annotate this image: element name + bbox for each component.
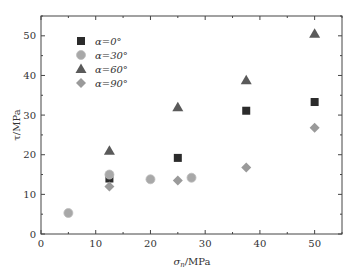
diamond-marker — [310, 123, 320, 133]
legend-label: α=30° — [95, 50, 128, 61]
plot-frame — [41, 16, 342, 234]
diamond-marker — [173, 175, 183, 185]
x-tick-label: 0 — [38, 238, 44, 249]
x-tick-label: 50 — [308, 238, 321, 249]
y-tick-label: 30 — [23, 110, 36, 121]
diamond-marker — [76, 78, 86, 88]
square-marker — [174, 154, 182, 162]
legend-label: α=0° — [95, 36, 122, 47]
x-tick-label: 20 — [144, 238, 157, 249]
x-tick-label: 40 — [254, 238, 267, 249]
legend-label: α=90° — [95, 78, 128, 89]
x-tick-label: 10 — [89, 238, 102, 249]
y-tick-label: 10 — [23, 189, 36, 200]
circle-marker — [105, 170, 114, 179]
scatter-chart: 0102030405001020304050 α=0°α=30°α=60°α=9… — [0, 0, 359, 275]
circle-marker — [77, 51, 86, 60]
y-tick-label: 20 — [23, 149, 36, 160]
y-tick-label: 50 — [23, 30, 36, 41]
circle-marker — [146, 175, 155, 184]
square-marker — [77, 37, 85, 45]
triangle-marker — [241, 75, 252, 85]
triangle-marker — [309, 28, 320, 38]
triangle-marker — [76, 64, 87, 74]
legend-label: α=60° — [95, 64, 128, 75]
diamond-marker — [104, 181, 114, 191]
y-tick-label: 40 — [23, 70, 36, 81]
circle-marker — [187, 173, 196, 182]
legend: α=0°α=30°α=60°α=90° — [76, 36, 128, 89]
y-axis-label: τ/MPa — [11, 109, 22, 140]
x-tick-label: 30 — [199, 238, 212, 249]
circle-marker — [64, 208, 73, 217]
square-marker — [311, 98, 319, 106]
triangle-marker — [172, 102, 183, 112]
square-marker — [242, 107, 250, 115]
y-tick-label: 0 — [30, 229, 36, 240]
diamond-marker — [241, 162, 251, 172]
triangle-marker — [104, 145, 115, 155]
x-axis-label: σn/MPa — [173, 256, 210, 269]
